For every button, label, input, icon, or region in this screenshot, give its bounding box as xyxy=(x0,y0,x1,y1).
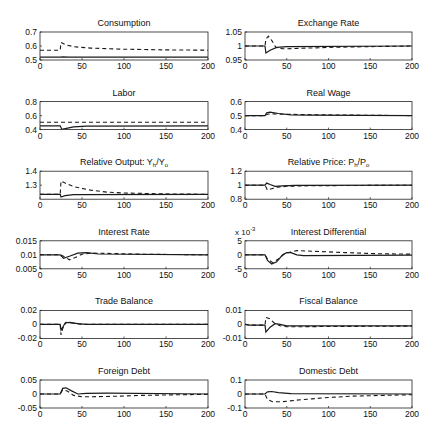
y-tick-label: 0 xyxy=(237,250,242,260)
x-tick-label: 150 xyxy=(363,409,377,419)
x-tick-label: 200 xyxy=(201,61,215,71)
plot-frame xyxy=(40,32,208,60)
panel-title: Real Wage xyxy=(306,88,350,98)
x-tick-label: 200 xyxy=(201,270,215,280)
panel-fiscal-balance: Fiscal Balance050100150200-0.0100.01 xyxy=(223,296,420,349)
x-tick-label: 100 xyxy=(117,61,131,71)
x-tick-label: 50 xyxy=(282,131,292,141)
y-tick-label: 0.95 xyxy=(225,55,242,65)
x-tick-label: 0 xyxy=(243,61,248,71)
panel-consumption: Consumption0501001502000.50.60.7 xyxy=(25,18,215,71)
y-tick-label: 0 xyxy=(237,389,242,399)
y-tick-label: 0.5 xyxy=(230,111,242,121)
x-tick-label: 50 xyxy=(77,270,87,280)
panel-interest-differential: Interest Differentialx 10-3050100150200-… xyxy=(234,226,419,280)
panel-title: Exchange Rate xyxy=(298,18,360,28)
x-tick-label: 200 xyxy=(201,409,215,419)
x-tick-label: 100 xyxy=(117,270,131,280)
x-tick-label: 150 xyxy=(159,131,173,141)
x-tick-label: 200 xyxy=(405,131,419,141)
y-tick-label: -0.02 xyxy=(18,333,38,343)
x-tick-label: 100 xyxy=(321,200,335,210)
y-tick-label: 0 xyxy=(32,319,37,329)
x-tick-label: 150 xyxy=(159,409,173,419)
y-tick-label: 1 xyxy=(237,41,242,51)
plot-frame xyxy=(245,310,412,338)
x-tick-label: 200 xyxy=(405,409,419,419)
x-tick-label: 50 xyxy=(282,61,292,71)
panel-title: Relative Output: Yh/Yo xyxy=(80,157,169,168)
x-tick-label: 150 xyxy=(363,270,377,280)
panel-title: Relative Price: Ph/Po xyxy=(288,157,370,168)
x-tick-label: 200 xyxy=(405,270,419,280)
y-tick-label: 5 xyxy=(237,236,242,246)
panel-trade-balance: Trade Balance050100150200-0.0200.02 xyxy=(18,296,216,349)
panel-domestic-debt: Domestic Debt050100150200-0.100.1 xyxy=(227,366,419,419)
y-tick-label: 0.05 xyxy=(20,375,37,385)
panel-title: Interest Rate xyxy=(98,227,150,237)
y-tick-label: -0.01 xyxy=(223,333,243,343)
panel-title: Interest Differential xyxy=(291,227,366,237)
x-tick-label: 0 xyxy=(243,200,248,210)
x-tick-label: 50 xyxy=(77,200,87,210)
y-tick-label: 1.4 xyxy=(25,166,37,176)
x-tick-label: 50 xyxy=(77,339,87,349)
y-tick-label: -5 xyxy=(234,264,242,274)
x-tick-label: 150 xyxy=(363,339,377,349)
y-tick-label: 0.6 xyxy=(25,111,37,121)
panel-title: Foreign Debt xyxy=(98,366,151,376)
x-tick-label: 0 xyxy=(243,409,248,419)
panel-title: Domestic Debt xyxy=(299,366,359,376)
y-tick-label: 1.3 xyxy=(25,180,37,190)
x-tick-label: 100 xyxy=(117,200,131,210)
x-tick-label: 0 xyxy=(38,339,43,349)
x-tick-label: 150 xyxy=(363,131,377,141)
y-tick-label: 0.4 xyxy=(25,125,37,135)
y-tick-label: 0.8 xyxy=(230,194,242,204)
x-tick-label: 50 xyxy=(282,200,292,210)
x-tick-label: 200 xyxy=(405,61,419,71)
x-tick-label: 100 xyxy=(117,339,131,349)
x-tick-label: 150 xyxy=(159,200,173,210)
y-tick-label: 0.01 xyxy=(225,305,242,315)
series-dashed-line xyxy=(245,394,412,402)
x-tick-label: 0 xyxy=(38,61,43,71)
panel-title: Trade Balance xyxy=(95,296,153,306)
series-dashed-line xyxy=(40,181,208,194)
x-tick-label: 150 xyxy=(363,61,377,71)
x-tick-label: 200 xyxy=(201,131,215,141)
x-tick-label: 0 xyxy=(38,270,43,280)
series-solid-line xyxy=(245,46,412,53)
y-tick-label: -0.05 xyxy=(18,403,38,413)
y-tick-label: 0.01 xyxy=(20,250,37,260)
series-solid-line xyxy=(245,392,412,395)
x-tick-label: 0 xyxy=(38,200,43,210)
x-tick-label: 0 xyxy=(38,131,43,141)
x-tick-label: 100 xyxy=(321,61,335,71)
y-tick-label: 1.05 xyxy=(225,27,242,37)
panel-relative-output: Relative Output: Yh/Yo0501001502001.31.4 xyxy=(25,157,215,210)
x-tick-label: 0 xyxy=(243,339,248,349)
y-tick-label: 0.1 xyxy=(230,375,242,385)
x-tick-label: 50 xyxy=(77,61,87,71)
x-tick-label: 150 xyxy=(159,61,173,71)
panel-relative-price: Relative Price: Ph/Po0501001502000.811.2 xyxy=(230,157,419,210)
y-tick-label: 1.2 xyxy=(230,166,242,176)
series-solid-line xyxy=(40,388,208,394)
x-tick-label: 100 xyxy=(321,339,335,349)
y-tick-label: 0.4 xyxy=(230,125,242,135)
x-tick-label: 200 xyxy=(405,339,419,349)
panel-labor: Labor0501001502000.40.60.8 xyxy=(25,88,215,141)
figure-grid: Consumption0501001502000.50.60.7 Exchang… xyxy=(0,0,433,436)
y-tick-label: 0 xyxy=(237,319,242,329)
x-tick-label: 200 xyxy=(405,200,419,210)
x-tick-label: 150 xyxy=(159,270,173,280)
x-tick-label: 0 xyxy=(243,131,248,141)
panel-interest-rate: Interest Rate0501001502000.0050.010.015 xyxy=(16,227,216,280)
y-tick-label: 0.5 xyxy=(25,55,37,65)
x-tick-label: 50 xyxy=(282,270,292,280)
x-tick-label: 50 xyxy=(282,409,292,419)
x-tick-label: 0 xyxy=(38,409,43,419)
series-dashed-line xyxy=(245,251,412,263)
x-tick-label: 100 xyxy=(321,270,335,280)
